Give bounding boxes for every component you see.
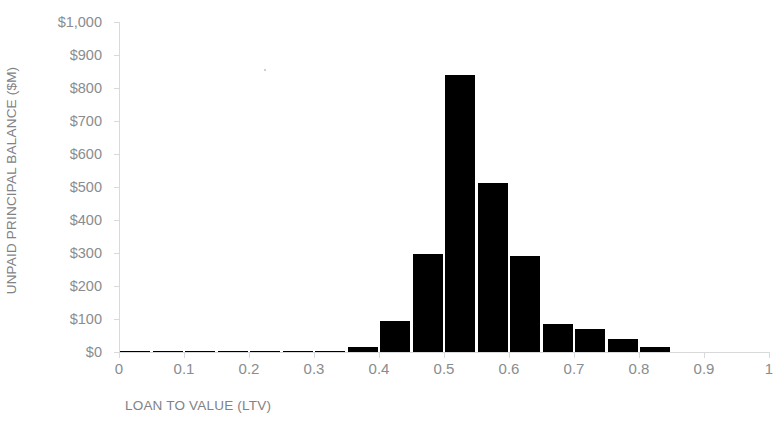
bar [120, 351, 150, 352]
x-tick-mark [444, 352, 445, 358]
plot-area [119, 22, 769, 352]
x-tick-mark [509, 352, 510, 358]
x-axis-title-label: LOAN TO VALUE (LTV) [125, 398, 271, 413]
x-tick-label: 0.4 [369, 360, 390, 377]
bar [380, 321, 410, 352]
y-tick-label: $400 [70, 212, 102, 228]
ltv-upb-histogram-chart: UNPAID PRINCIPAL BALANCE ($M) $0$100$200… [0, 0, 781, 447]
x-tick-mark [249, 352, 250, 358]
y-tick-mark [114, 187, 120, 188]
y-tick-label: $300 [70, 245, 102, 261]
x-tick-label: 0.7 [564, 360, 585, 377]
bar [348, 347, 378, 352]
bar [250, 351, 280, 352]
bar [283, 351, 313, 352]
y-axis-title: UNPAID PRINCIPAL BALANCE ($M) [0, 0, 24, 360]
bar [640, 347, 670, 352]
y-axis-title-label: UNPAID PRINCIPAL BALANCE ($M) [5, 66, 20, 294]
bar [575, 329, 605, 352]
bar [608, 339, 638, 352]
x-tick-mark [769, 352, 770, 358]
y-tick-mark [114, 55, 120, 56]
y-tick-mark [114, 22, 120, 23]
bar [315, 351, 345, 352]
x-tick-label: 0.9 [694, 360, 715, 377]
x-tick-label: 0.5 [434, 360, 455, 377]
y-tick-mark [114, 253, 120, 254]
y-tick-label: $500 [70, 179, 102, 195]
x-axis-tick-labels: 00.10.20.30.40.50.60.70.80.91 [119, 360, 779, 386]
bar [445, 75, 475, 352]
x-tick-label: 0.6 [499, 360, 520, 377]
bar [543, 324, 573, 352]
x-tick-mark [704, 352, 705, 358]
bar [185, 351, 215, 352]
x-tick-label: 0.8 [629, 360, 650, 377]
x-tick-mark [314, 352, 315, 358]
x-tick-mark [184, 352, 185, 358]
y-axis-tick-labels: $0$100$200$300$400$500$600$700$800$900$1… [24, 0, 110, 375]
y-tick-label: $700 [70, 113, 102, 129]
y-tick-mark [114, 88, 120, 89]
y-tick-mark [114, 286, 120, 287]
x-tick-label: 0.1 [174, 360, 195, 377]
y-tick-mark [114, 319, 120, 320]
bar [153, 351, 183, 352]
y-tick-label: $600 [70, 146, 102, 162]
y-tick-label: $200 [70, 278, 102, 294]
x-tick-mark [119, 352, 120, 358]
bar [413, 254, 443, 352]
bar [510, 256, 540, 352]
bar [218, 351, 248, 352]
y-tick-label: $900 [70, 47, 102, 63]
y-tick-mark [114, 154, 120, 155]
y-tick-mark [114, 121, 120, 122]
x-tick-label: 1 [765, 360, 773, 377]
y-tick-label: $800 [70, 80, 102, 96]
stray-speck [264, 69, 266, 71]
x-tick-mark [574, 352, 575, 358]
x-tick-mark [379, 352, 380, 358]
x-tick-label: 0.2 [239, 360, 260, 377]
y-tick-label: $0 [86, 344, 102, 360]
y-tick-mark [114, 220, 120, 221]
y-tick-label: $100 [70, 311, 102, 327]
x-tick-label: 0.3 [304, 360, 325, 377]
y-tick-label: $1,000 [58, 14, 102, 30]
x-tick-label: 0 [115, 360, 123, 377]
bar [478, 183, 508, 352]
x-tick-mark [639, 352, 640, 358]
